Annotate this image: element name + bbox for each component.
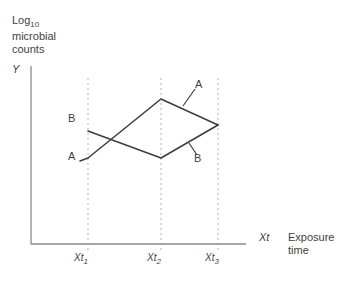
tick-label-xt3-sub: 3	[214, 257, 218, 266]
tick-label-xt3: Xt3	[205, 252, 219, 266]
tick-label-xt2-sub: 2	[156, 257, 160, 266]
x-axis-desc-line2: time	[288, 244, 309, 256]
y-axis-title-log: Log	[12, 14, 30, 26]
figure-container: Log10microbialcounts Y Xt Exposuretime X…	[0, 0, 350, 282]
y-axis-title-subscript: 10	[30, 20, 39, 29]
tick-label-xt2: Xt2	[147, 252, 161, 266]
x-axis-symbol: Xt	[259, 231, 269, 244]
x-axis-desc-line1: Exposure	[288, 231, 334, 243]
curve-label-a-left: A	[68, 150, 75, 163]
leader-line-a	[183, 89, 195, 106]
y-axis-title-line2: microbial	[12, 30, 56, 42]
x-axis-description: Exposuretime	[288, 231, 334, 257]
y-axis-symbol: Y	[12, 63, 19, 76]
curve-label-a-right: A	[195, 78, 202, 91]
tick-label-xt1: Xt1	[74, 252, 88, 266]
curve-label-b-right: B	[194, 152, 201, 165]
curve-label-b-left: B	[68, 112, 75, 125]
y-axis-title: Log10microbialcounts	[12, 14, 56, 56]
y-axis-title-line3: counts	[12, 43, 44, 55]
tick-label-xt1-sub: 1	[83, 257, 87, 266]
